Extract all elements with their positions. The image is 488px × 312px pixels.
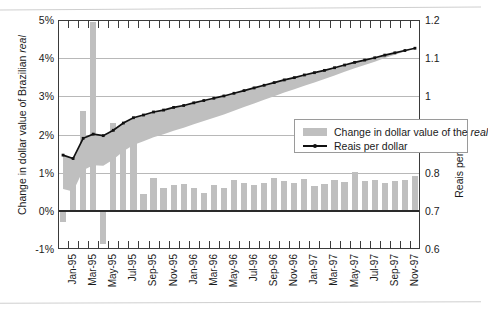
line-marker	[243, 89, 246, 92]
axis-tick	[239, 21, 240, 28]
axis-tick	[159, 21, 160, 28]
axis-frame-bottom	[58, 248, 420, 249]
zero-baseline	[58, 210, 420, 212]
axis-tick	[128, 21, 129, 28]
axis-tick	[169, 21, 170, 28]
y-axis-left-tick-label: 4%	[39, 52, 54, 64]
axis-tick	[229, 21, 230, 28]
x-axis-labels: Jan-95Mar-95May-95Jul-95Sep-95Nov-95Jan-…	[58, 254, 420, 310]
line-marker	[162, 109, 165, 112]
axis-tick	[138, 21, 139, 28]
x-axis-tick-label: May-97	[349, 254, 360, 287]
axis-tick	[390, 21, 391, 28]
line-marker	[212, 97, 215, 100]
line-marker	[122, 122, 125, 125]
y-axis-right-tick-label: 0.7	[425, 205, 440, 217]
line-marker	[172, 106, 175, 109]
legend-label-bar-text: Change in dollar value of the	[334, 126, 471, 138]
axis-tick	[360, 21, 361, 28]
axis-tick	[380, 21, 381, 28]
line-marker	[192, 101, 195, 104]
line-marker	[102, 134, 105, 137]
line-marker	[142, 114, 145, 117]
line-marker	[393, 51, 396, 54]
legend-label-line: Reais per dollar	[334, 140, 408, 152]
x-axis-tick-label: Mar-97	[328, 254, 339, 286]
axis-tick	[269, 21, 270, 28]
line-marker	[263, 84, 266, 87]
line-marker	[303, 74, 306, 77]
line-marker	[273, 81, 276, 84]
x-axis-tick-label: Sep-96	[268, 254, 279, 286]
line-marker	[414, 47, 417, 50]
axis-tick	[199, 21, 200, 28]
y-axis-left-tick-label: 0%	[39, 205, 54, 217]
axis-tick	[209, 21, 210, 28]
x-axis-tick-label: Jul-95	[127, 254, 138, 281]
chart-legend: Change in dollar value of the real Reais…	[294, 119, 468, 153]
legend-label-bar: Change in dollar value of the real	[334, 126, 488, 138]
axis-tick	[88, 21, 89, 28]
y-axis-left-ticks: 5%4%3%2%1%0%-1%	[24, 20, 54, 249]
legend-item-change-in-dollar-value: Change in dollar value of the real	[303, 125, 488, 139]
axis-tick	[340, 21, 341, 28]
line-marker	[202, 99, 205, 102]
axis-tick	[299, 21, 300, 28]
axis-frame-top	[58, 20, 420, 21]
line-marker	[323, 69, 326, 72]
line-marker	[353, 61, 356, 64]
x-axis-tick-label: May-95	[107, 254, 118, 287]
axis-tick	[149, 21, 150, 28]
axis-tick	[319, 21, 320, 28]
line-marker	[363, 59, 366, 62]
axis-tick	[259, 21, 260, 28]
plot-area: Change in dollar value of the real Reais…	[58, 20, 420, 249]
y-axis-left-tick-label: 3%	[39, 90, 54, 102]
line-marker	[182, 104, 185, 107]
axis-frame-left	[58, 20, 59, 249]
y-axis-right-tick-label: 0.8	[425, 167, 440, 179]
x-axis-tick-label: Nov-97	[409, 254, 420, 286]
x-axis-tick-label: Mar-95	[87, 254, 98, 286]
axis-tick	[68, 21, 69, 28]
line-marker	[383, 54, 386, 57]
x-axis-tick-label: Jan-95	[67, 254, 78, 285]
x-axis-tick-label: Sep-95	[147, 254, 158, 286]
line-marker	[404, 49, 407, 52]
line-marker	[112, 129, 115, 132]
line-marker	[72, 157, 75, 160]
x-axis-tick-label: Nov-96	[288, 254, 299, 286]
line-marker	[333, 66, 336, 69]
axis-tick	[410, 21, 411, 28]
x-axis-tick-label: Jan-97	[308, 254, 319, 285]
line-marker	[283, 79, 286, 82]
axis-tick	[309, 21, 310, 28]
x-axis-tick-label: Nov-95	[168, 254, 179, 286]
axis-tick	[350, 21, 351, 28]
line-marker	[132, 116, 135, 119]
axis-tick	[179, 21, 180, 28]
axis-tick	[279, 21, 280, 28]
line-marker	[313, 71, 316, 74]
line-marker	[233, 92, 236, 95]
y-axis-left-tick-label: 2%	[39, 129, 54, 141]
axis-tick	[219, 21, 220, 28]
line-marker	[152, 111, 155, 114]
scan-artifact-top	[0, 7, 481, 11]
y-axis-right-tick-label: 1.2	[425, 14, 440, 26]
x-axis-tick-label: Jul-96	[248, 254, 259, 281]
line-marker	[62, 154, 65, 157]
y-axis-left-tick-label: 1%	[39, 167, 54, 179]
line-marker	[223, 95, 226, 98]
y-axis-right-tick-label: 1	[425, 90, 431, 102]
x-axis-tick-label: Jan-96	[188, 254, 199, 285]
axis-tick	[289, 21, 290, 28]
legend-item-reais-per-dollar: Reais per dollar	[303, 139, 408, 153]
y-axis-left-tick-label: 5%	[39, 14, 54, 26]
line-marker	[343, 64, 346, 67]
x-axis-tick-label: May-96	[228, 254, 239, 287]
x-axis-tick-label: Jul-97	[369, 254, 380, 281]
axis-tick	[98, 21, 99, 28]
y-axis-right-tick-label: 0.6	[425, 243, 440, 255]
